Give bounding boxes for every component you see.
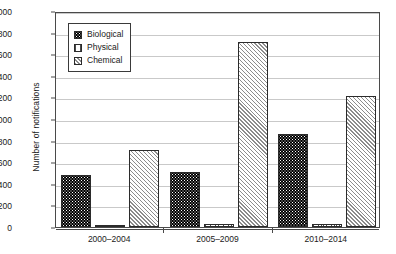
x-tick-label-2010–2014: 2010–2014	[305, 234, 348, 244]
y-tick-label-600: 600	[0, 158, 12, 168]
y-axis-title: Number of notifications	[31, 47, 41, 207]
legend-swatch-biological	[74, 31, 82, 39]
legend-swatch-physical	[74, 44, 82, 52]
bar-chemical-2005–2009	[238, 42, 268, 227]
bar-biological-2005–2009	[170, 172, 200, 227]
legend: Biological Physical Chemical	[68, 23, 131, 72]
x-tick-label-2005–2009: 2005–2009	[196, 234, 239, 244]
y-tick-label-800: 800	[0, 137, 12, 147]
x-tick-label-2000–2004: 2000–2004	[88, 234, 131, 244]
legend-label-chemical: Chemical	[87, 56, 122, 65]
bar-biological-2000–2004	[61, 175, 91, 227]
bar-physical-2005–2009	[204, 224, 234, 227]
x-tick-mark-1	[163, 228, 164, 233]
y-tick-label-1400: 1400	[0, 72, 12, 82]
y-tick-label-1800: 1800	[0, 29, 12, 39]
y-tick-label-2000: 2000	[0, 7, 12, 17]
y-tick-label-200: 200	[0, 201, 12, 211]
bar-chemical-2000–2004	[129, 150, 159, 227]
legend-item-biological: Biological	[74, 28, 123, 41]
legend-label-physical: Physical	[87, 43, 119, 52]
bar-physical-2000–2004	[95, 225, 125, 227]
y-tick-label-0: 0	[0, 223, 12, 233]
y-tick-label-1600: 1600	[0, 50, 12, 60]
y-tick-label-1000: 1000	[0, 115, 12, 125]
y-tick-label-400: 400	[0, 180, 12, 190]
gridline-0	[56, 229, 379, 230]
x-tick-mark-2	[272, 228, 273, 233]
plot-area: Biological Physical Chemical	[55, 12, 380, 228]
y-tick-label-1200: 1200	[0, 93, 12, 103]
legend-label-biological: Biological	[87, 30, 123, 39]
legend-swatch-chemical	[74, 57, 82, 65]
bar-physical-2010–2014	[312, 224, 342, 227]
legend-item-physical: Physical	[74, 41, 123, 54]
bar-chart: Number of notifications 0200400600800100…	[0, 0, 396, 254]
bar-biological-2010–2014	[278, 134, 308, 227]
bar-chemical-2010–2014	[346, 96, 376, 227]
legend-item-chemical: Chemical	[74, 54, 123, 67]
